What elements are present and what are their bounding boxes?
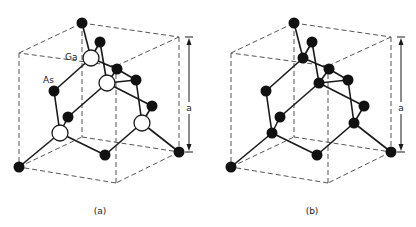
bond: [231, 133, 272, 167]
as-atom: [131, 75, 142, 86]
arrow-down-icon: [187, 144, 192, 151]
atom: [226, 162, 237, 173]
bond: [280, 83, 319, 117]
atom-label-as: As: [43, 75, 54, 85]
bond: [319, 83, 364, 106]
atom: [267, 128, 278, 139]
ga-atom: [134, 115, 150, 131]
as-atom: [100, 150, 111, 161]
atom: [343, 75, 354, 86]
crystal-structure-svg: aGaAs(a)a(b): [0, 0, 416, 227]
figure-caption: (b): [306, 206, 319, 216]
as-atom: [174, 147, 185, 158]
cube-edge: [116, 152, 179, 183]
figure-caption: (a): [94, 206, 107, 216]
as-atom: [112, 64, 123, 75]
cube-edge: [328, 152, 391, 183]
ga-atom: [99, 75, 115, 91]
bond: [266, 91, 272, 133]
atom-label-ga: Ga: [65, 52, 78, 62]
cube-edge: [19, 23, 82, 53]
atom: [359, 101, 370, 112]
atom: [298, 53, 309, 64]
cube-edge: [294, 137, 391, 152]
arrow-down-icon: [399, 144, 404, 151]
as-atom: [63, 112, 74, 123]
as-atom: [147, 101, 158, 112]
as-atom: [49, 86, 60, 97]
cube-edge: [19, 167, 116, 183]
cube-edge: [328, 37, 391, 66]
atom: [275, 112, 286, 123]
atom: [261, 86, 272, 97]
ga-atom: [52, 125, 68, 141]
bond: [348, 80, 354, 123]
cube-edge: [294, 23, 391, 37]
as-atom: [95, 37, 106, 48]
as-atom: [77, 18, 88, 29]
atom: [349, 118, 360, 129]
bond: [354, 123, 391, 152]
atom: [314, 78, 325, 89]
atom: [307, 37, 318, 48]
gaas-zincblende-diagram: aGaAs(a)a(b): [0, 0, 416, 227]
cube-edge: [82, 23, 179, 37]
cube-edge: [231, 167, 328, 183]
as-atom: [14, 162, 25, 173]
bond: [266, 58, 303, 91]
lattice-constant-label: a: [398, 103, 404, 113]
atom: [324, 64, 335, 75]
arrow-up-icon: [187, 38, 192, 45]
atom: [386, 147, 397, 158]
lattice-constant-label: a: [186, 103, 192, 113]
figure-b: a(b): [226, 18, 406, 217]
atom: [289, 18, 300, 29]
arrow-up-icon: [399, 38, 404, 45]
cube-edge: [231, 23, 294, 53]
bond: [317, 123, 354, 155]
cube-edge: [116, 37, 179, 66]
atom: [312, 150, 323, 161]
ga-atom: [83, 50, 99, 66]
cube-edge: [82, 137, 179, 152]
figure-a: aGaAs(a): [14, 18, 194, 217]
